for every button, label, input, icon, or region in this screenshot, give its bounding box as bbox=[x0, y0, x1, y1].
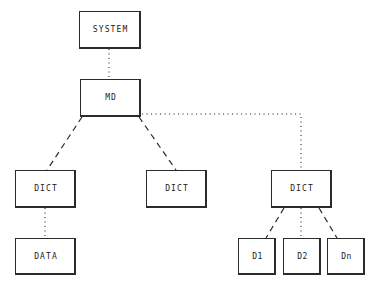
node-system[interactable]: SYSTEM bbox=[79, 11, 141, 49]
connector-md-dict-left bbox=[47, 117, 82, 170]
connector-md-dict-mid bbox=[139, 117, 176, 170]
connector-dict-right-dn bbox=[319, 208, 337, 238]
connector-md-dict-right bbox=[142, 114, 301, 170]
node-dn[interactable]: Dn bbox=[327, 238, 365, 275]
node-label: DICT bbox=[164, 185, 189, 193]
connector-dict-right-d1 bbox=[266, 208, 284, 238]
node-label: DICT bbox=[289, 185, 314, 193]
node-d1[interactable]: D1 bbox=[238, 238, 276, 275]
node-md[interactable]: MD bbox=[80, 79, 141, 117]
node-d2[interactable]: D2 bbox=[283, 238, 321, 275]
node-label: DICT bbox=[33, 185, 58, 193]
node-data[interactable]: DATA bbox=[15, 238, 76, 275]
node-dict-middle[interactable]: DICT bbox=[146, 170, 207, 208]
node-label: DATA bbox=[33, 253, 58, 261]
diagram-canvas: SYSTEM MD DICT DICT DICT DATA D1 D2 Dn bbox=[0, 0, 375, 286]
node-label: D2 bbox=[296, 253, 308, 261]
node-label: D1 bbox=[251, 253, 263, 261]
node-dict-left[interactable]: DICT bbox=[15, 170, 76, 208]
node-label: SYSTEM bbox=[92, 26, 129, 34]
node-label: MD bbox=[104, 94, 117, 102]
node-label: Dn bbox=[340, 253, 352, 261]
node-dict-right[interactable]: DICT bbox=[271, 170, 332, 208]
